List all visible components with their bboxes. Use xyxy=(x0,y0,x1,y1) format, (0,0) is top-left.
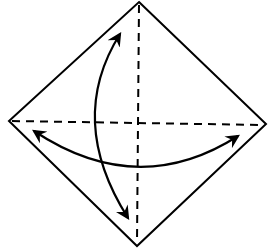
origami-diagram xyxy=(0,0,268,250)
